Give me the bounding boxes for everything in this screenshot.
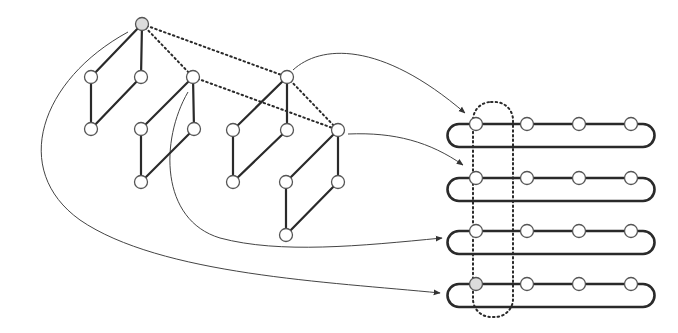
arrow-g4-to-ring2 [348,134,463,165]
ring-node [573,225,586,238]
ring-node-shaded [470,278,483,291]
ring-node [521,172,534,185]
node [281,124,294,137]
node [332,124,345,137]
node [281,71,294,84]
lattice-group-1 [85,24,148,136]
arrow-g3-to-ring1 [293,53,465,113]
node [187,71,200,84]
dotted-link [193,77,338,130]
ring-node [470,172,483,185]
ring-node [625,118,638,131]
ring-node [470,118,483,131]
ring-node [573,118,586,131]
node [332,176,345,189]
node [85,71,98,84]
arrow-g2-to-ring3 [170,92,442,247]
ring-node [521,118,534,131]
node [85,123,98,136]
node [280,176,293,189]
node [135,176,148,189]
node [188,123,201,136]
ring-node [625,225,638,238]
lattice-group-4 [280,124,345,242]
ring-node [470,225,483,238]
ring-nodes [470,118,638,291]
lattice-group-2 [135,71,201,189]
arrow-root-to-ring4 [41,32,440,293]
root-node [136,18,149,31]
ring-node [573,172,586,185]
dotted-links [142,24,338,130]
node [227,124,240,137]
ring-node [625,172,638,185]
dotted-link [142,24,287,77]
ring-node [625,278,638,291]
diagram-canvas [0,0,678,333]
node [227,176,240,189]
lattice-group-3 [227,71,294,189]
ring-node [521,225,534,238]
ring-node [521,278,534,291]
node [280,229,293,242]
dotted-link [142,24,193,77]
node [135,123,148,136]
node [135,71,148,84]
ring-node [573,278,586,291]
dotted-link [287,77,338,130]
